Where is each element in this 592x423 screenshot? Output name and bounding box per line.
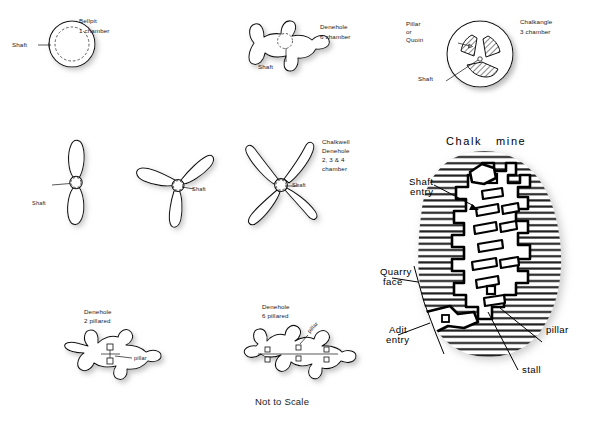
chalkwell-4-lobe-nw xyxy=(246,145,278,184)
chalk-mine-shaft-entry-line2: entry xyxy=(410,186,433,197)
pillar-box-3 xyxy=(296,345,301,350)
chalkwell-4-title-line3: 2, 3 & 4 xyxy=(322,156,345,163)
denehole-2-pillared-title-line2: 2 pillared xyxy=(84,317,111,324)
denehole-6-chamber-title-line1: Denehole xyxy=(320,23,348,30)
adit-pillar-block xyxy=(442,315,449,322)
denehole-6-pillared-title-line2: 6 pillared xyxy=(262,312,289,319)
pillar-box-6 xyxy=(324,357,329,362)
chalkwell-2-lobe-top xyxy=(69,140,85,178)
bellpit-drawing xyxy=(32,12,118,78)
chalkwell-4-lobe-sw xyxy=(249,190,280,225)
chalkangle-drawing xyxy=(436,12,528,98)
bellpit-title-line1: Bellpit xyxy=(79,17,97,24)
denehole-6-pillared-outline xyxy=(244,325,356,378)
diagram-denehole-6-pillared xyxy=(238,318,368,388)
chalkwell-2-lobe-bottom xyxy=(68,187,84,225)
chalkwell-4-shaft-label: Shaft xyxy=(292,182,306,189)
denehole-6-chamber-title-line2: 6 chamber xyxy=(320,33,351,40)
pillar-box-4 xyxy=(296,356,301,361)
pillar-box-1 xyxy=(107,344,113,350)
diagram-bellpit xyxy=(32,12,118,78)
diagram-chalkwell-3-chamber xyxy=(128,140,224,228)
chalkwell-4-lobe-ne xyxy=(284,142,314,183)
diagram-denehole-6-chamber xyxy=(228,10,348,84)
chalkwell-3-lobe-lower xyxy=(169,190,182,227)
chalkangle-outer-circle xyxy=(447,21,513,87)
chalkangle-pillar-label-line2: or xyxy=(406,28,412,35)
chalkwell-4-shaft-circle xyxy=(275,179,288,192)
chalk-mine-adit-entry-line2: entry xyxy=(386,334,409,345)
denehole-6-chamber-shaft-label: Shaft xyxy=(258,63,273,70)
denehole-2-pillared-pillar-label: pillar xyxy=(134,355,147,362)
chalkwell-3-shaft-label: Shaft xyxy=(192,186,206,193)
chalkwell-4-title-line1: Chalkwell xyxy=(322,138,350,145)
denehole-6-pillared-title-line1: Denehole xyxy=(262,303,290,310)
chalkwell-2-shaft-leader xyxy=(52,184,70,186)
denehole-6-pillared-drawing xyxy=(238,318,368,388)
pillar-box-1 xyxy=(265,347,270,352)
chalkwell-4-title-line2: Denehole xyxy=(322,147,350,154)
pillar-box-2 xyxy=(107,358,113,364)
chalkangle-shaft-circle xyxy=(478,57,482,61)
chalkangle-pillar-label-line1: Pillar xyxy=(406,20,421,27)
chalkangle-title-line2: 3 chamber xyxy=(520,28,551,35)
diagram-chalkwell-4-chamber xyxy=(232,134,332,234)
chalkwell-3-lobe-upper-right xyxy=(181,155,214,184)
chalkwell-2-shaft-circle xyxy=(70,176,82,188)
pillar-box-2 xyxy=(265,357,270,362)
chalkwell-3-drawing xyxy=(128,140,224,228)
figure-caption: Not to Scale xyxy=(255,396,309,407)
chalkwell-2-shaft-label: Shaft xyxy=(32,200,46,207)
chalkwell-4-lobe-se xyxy=(285,188,317,219)
chalkwell-3-lobe-left xyxy=(137,168,175,186)
chalkwell-2-drawing xyxy=(42,136,116,228)
chalkwell-4-title-line4: chamber xyxy=(322,165,347,172)
diagram-chalkangle-3-chamber xyxy=(436,12,528,98)
chalkangle-title-line1: Chalkangle xyxy=(520,18,552,25)
chalkwell-3-shaft-circle xyxy=(172,180,184,192)
denehole-2-pillared-title-line1: Denehole xyxy=(84,308,112,315)
chalkangle-pillar-label-line3: Quoin xyxy=(406,36,423,43)
chalk-mine-drawing xyxy=(378,130,592,395)
denehole-6-chamber-drawing xyxy=(228,10,348,84)
bellpit-shaft-label: Shaft xyxy=(12,41,27,48)
diagram-chalk-mine xyxy=(378,130,592,395)
chalk-mine-quarry-face-line2: face xyxy=(383,276,403,287)
chalk-mine-title: Chalk mine xyxy=(446,136,526,147)
pillar-box-5 xyxy=(324,347,329,352)
diagram-denehole-2-pillared xyxy=(58,322,182,388)
bellpit-title-line2: 1 chamber xyxy=(79,27,110,34)
chalkwell-4-drawing xyxy=(232,134,332,234)
denehole-2-pillared-drawing xyxy=(58,322,182,388)
chalkangle-shaft-label: Shaft xyxy=(418,75,433,82)
chalk-mine-pillar-label: pillar xyxy=(546,324,569,335)
chalk-mine-stall-label: stall xyxy=(522,364,541,375)
diagram-chalkwell-2-chamber xyxy=(42,136,116,228)
